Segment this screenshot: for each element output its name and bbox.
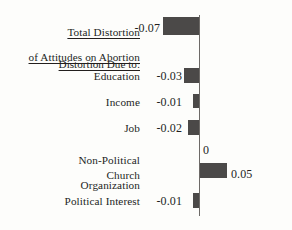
bar-education xyxy=(184,68,199,83)
row-label-church: Church xyxy=(106,169,140,181)
row-label-income: Income xyxy=(106,96,140,108)
row-value-education: -0.03 xyxy=(142,70,182,83)
bar-income xyxy=(193,94,199,108)
row-label-political-interest: Political Interest xyxy=(65,195,140,207)
bar-total-distortion xyxy=(163,17,199,35)
row-value-political-interest: -0.01 xyxy=(142,195,182,208)
bar-job xyxy=(188,120,199,135)
section-header-distortion-due-to: Distortion Due to: xyxy=(59,58,140,70)
row-label-non-political-organization-line1: Non-Political xyxy=(78,154,140,166)
row-value-total-distortion: -0.07 xyxy=(120,22,160,35)
row-label-education: Education xyxy=(94,70,140,82)
row-value-income: -0.01 xyxy=(142,96,182,109)
row-label-non-political-organization: Non-Political Organization xyxy=(78,142,140,192)
row-label-job: Job xyxy=(124,122,140,134)
row-value-non-political-organization: 0 xyxy=(203,144,223,157)
zero-axis-line xyxy=(199,15,200,216)
bar-church xyxy=(200,163,227,178)
row-value-church: 0.05 xyxy=(231,168,271,181)
row-value-job: -0.02 xyxy=(142,122,182,135)
bar-political-interest xyxy=(193,193,199,208)
distortion-bar-chart: Total Distortion of Attitudes on Abortio… xyxy=(0,0,292,230)
